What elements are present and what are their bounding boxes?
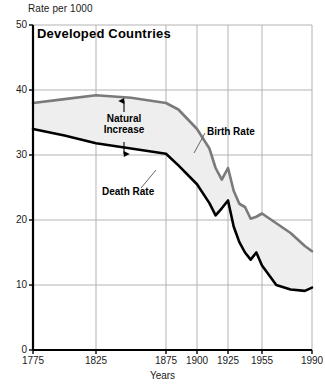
x-tick-label: 1775 bbox=[16, 355, 50, 366]
x-tick-label: 1825 bbox=[79, 355, 113, 366]
y-tick-label: 50 bbox=[3, 19, 27, 30]
x-tick-label: 1875 bbox=[149, 355, 183, 366]
y-tick-label: 10 bbox=[3, 279, 27, 290]
natural-increase-label: Natural Increase bbox=[96, 113, 152, 135]
x-tick-label: 1990 bbox=[295, 355, 325, 366]
x-tick-label: 1925 bbox=[211, 355, 245, 366]
y-tick-label: 20 bbox=[3, 214, 27, 225]
plot-background bbox=[33, 25, 312, 350]
death-rate-label: Death Rate bbox=[102, 186, 154, 197]
x-tick-label: 1955 bbox=[245, 355, 279, 366]
chart-title: Developed Countries bbox=[37, 26, 171, 41]
chart-figure: Rate per 1000 bbox=[0, 0, 325, 385]
x-axis-caption: Years bbox=[0, 370, 325, 381]
birth-rate-label: Birth Rate bbox=[207, 126, 255, 137]
chart-canvas bbox=[0, 0, 325, 385]
natural-increase-label-line1: Natural bbox=[96, 113, 152, 124]
y-tick-label: 0 bbox=[3, 344, 27, 355]
natural-increase-label-line2: Increase bbox=[96, 124, 152, 135]
y-tick-label: 30 bbox=[3, 149, 27, 160]
y-tick-label: 40 bbox=[3, 84, 27, 95]
x-tick-label: 1900 bbox=[180, 355, 214, 366]
